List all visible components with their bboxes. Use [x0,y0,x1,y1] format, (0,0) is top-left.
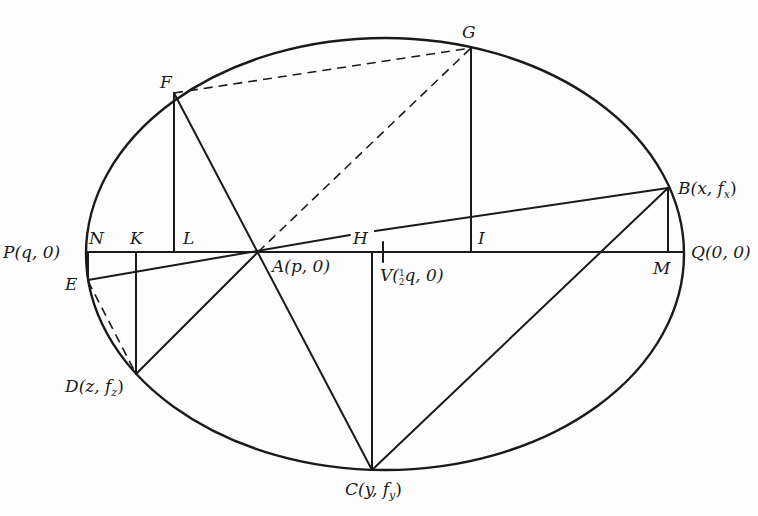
label-A: A(p, 0) [270,256,330,276]
label-V-rest: q, 0) [404,265,443,285]
label-G: G [462,22,476,42]
label-D-main: D(z, f [64,376,114,396]
label-E: E [64,274,78,294]
label-P: P(q, 0) [2,242,60,262]
label-B-main: B(x, f [677,178,727,198]
segment-DA [136,252,258,374]
ellipse-construction-figure: P(q, 0) Q(0, 0) A(p, 0) B(x, fx) C(y, fy… [0,0,758,516]
dashed-FG [174,48,471,93]
label-N: N [88,228,105,248]
label-Q: Q(0, 0) [691,242,751,262]
ellipse-curve [86,38,684,470]
label-F: F [159,72,173,92]
segment-HB [375,188,668,231]
label-C: C(y, fy) [345,479,402,502]
label-D: D(z, fz) [64,376,124,399]
segment-CB [372,188,668,470]
label-M: M [652,258,671,278]
segment-FC [174,93,372,470]
label-L: L [182,228,194,248]
label-B: B(x, fx) [677,178,737,201]
diagram-canvas: P(q, 0) Q(0, 0) A(p, 0) B(x, fx) C(y, fy… [0,0,758,516]
label-I: I [477,228,485,248]
dashed-ED [88,281,136,374]
label-V-main: V( [380,265,399,285]
label-V: V(12q, 0) [380,265,444,287]
label-C-main: C(y, f [345,479,392,499]
label-H: H [352,228,369,248]
label-K: K [129,228,144,248]
